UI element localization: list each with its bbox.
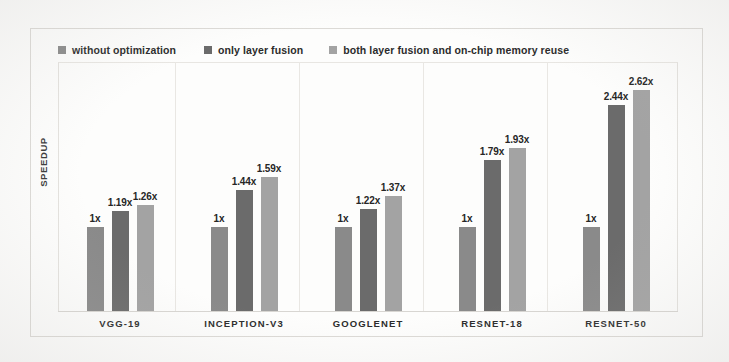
- chart-legend: without optimization only layer fusion b…: [58, 42, 569, 58]
- bar-group-bars: 1x1.44x1.59x: [182, 62, 306, 312]
- bar-value-label: 1x: [90, 213, 101, 224]
- bar-column[interactable]: 1.19x: [112, 62, 129, 312]
- bar-column[interactable]: 1.93x: [509, 62, 526, 312]
- x-axis-category-label: INCEPTION-V3: [182, 318, 306, 329]
- plot-area: 1x1.19x1.26x1x1.44x1.59x1x1.22x1.37x1x1.…: [58, 62, 678, 312]
- legend-item-only-layer-fusion: only layer fusion: [204, 44, 303, 56]
- bar-group: 1x2.44x2.62x: [554, 62, 678, 312]
- bar[interactable]: [261, 177, 278, 312]
- bar-group: 1x1.22x1.37x: [306, 62, 430, 312]
- bar[interactable]: [509, 148, 526, 312]
- bar[interactable]: [484, 160, 501, 312]
- bar-column[interactable]: 1.79x: [484, 62, 501, 312]
- bar-group-bars: 1x1.79x1.93x: [430, 62, 554, 312]
- bar-column[interactable]: 1x: [583, 62, 600, 312]
- bar-column[interactable]: 1.26x: [137, 62, 154, 312]
- bar[interactable]: [633, 90, 650, 312]
- x-axis-category-label: RESNET-18: [430, 318, 554, 329]
- bar[interactable]: [137, 205, 154, 312]
- bar-group: 1x1.44x1.59x: [182, 62, 306, 312]
- bar-value-label: 1x: [338, 213, 349, 224]
- bar-value-label: 1.44x: [232, 176, 257, 187]
- legend-label-series-1: without optimization: [72, 44, 176, 56]
- bar-group-bars: 1x2.44x2.62x: [554, 62, 678, 312]
- x-axis-category-label: VGG-19: [58, 318, 182, 329]
- bar-value-label: 1.59x: [257, 163, 282, 174]
- x-axis-category-label: RESNET-50: [554, 318, 678, 329]
- legend-item-both-fusion-and-memory-reuse: both layer fusion and on-chip memory reu…: [329, 44, 569, 56]
- bar-value-label: 1.26x: [133, 191, 158, 202]
- bar-column[interactable]: 1.59x: [261, 62, 278, 312]
- bar[interactable]: [236, 190, 253, 312]
- bar-column[interactable]: 1.37x: [385, 62, 402, 312]
- bar[interactable]: [335, 227, 352, 312]
- bar-column[interactable]: 2.44x: [608, 62, 625, 312]
- bar-value-label: 1x: [214, 213, 225, 224]
- bar[interactable]: [211, 227, 228, 312]
- bar-group: 1x1.79x1.93x: [430, 62, 554, 312]
- bar[interactable]: [87, 227, 104, 312]
- bar[interactable]: [112, 211, 129, 312]
- bar[interactable]: [360, 209, 377, 312]
- y-axis-title: SPEEDUP: [38, 122, 49, 202]
- bar-value-label: 1.79x: [480, 146, 505, 157]
- bar-column[interactable]: 1x: [335, 62, 352, 312]
- bar-value-label: 1.22x: [356, 195, 381, 206]
- bar-group-bars: 1x1.22x1.37x: [306, 62, 430, 312]
- bar-value-label: 1.19x: [108, 197, 133, 208]
- legend-swatch-icon-series-1: [58, 46, 66, 54]
- bar-group-bars: 1x1.19x1.26x: [58, 62, 182, 312]
- legend-swatch-icon-series-3: [329, 46, 337, 54]
- scanned-figure-canvas: without optimization only layer fusion b…: [0, 0, 729, 362]
- legend-label-series-3: both layer fusion and on-chip memory reu…: [343, 44, 569, 56]
- bar-column[interactable]: 1x: [459, 62, 476, 312]
- bar[interactable]: [583, 227, 600, 312]
- bar[interactable]: [459, 227, 476, 312]
- bar-value-label: 2.44x: [604, 91, 629, 102]
- bar-value-label: 1.37x: [381, 182, 406, 193]
- bar-value-label: 1.93x: [505, 134, 530, 145]
- legend-label-series-2: only layer fusion: [218, 44, 303, 56]
- legend-swatch-icon-series-2: [204, 46, 212, 54]
- bar[interactable]: [608, 105, 625, 312]
- bar-column[interactable]: 1x: [87, 62, 104, 312]
- bar-value-label: 1x: [462, 213, 473, 224]
- x-axis-baseline: [58, 311, 678, 312]
- bar-group: 1x1.19x1.26x: [58, 62, 182, 312]
- bar-value-label: 1x: [586, 213, 597, 224]
- bar-column[interactable]: 2.62x: [633, 62, 650, 312]
- bar-column[interactable]: 1.44x: [236, 62, 253, 312]
- x-axis-category-label: GOOGLENET: [306, 318, 430, 329]
- bar-value-label: 2.62x: [629, 76, 654, 87]
- bar-column[interactable]: 1x: [211, 62, 228, 312]
- legend-item-without-optimization: without optimization: [58, 44, 176, 56]
- bar[interactable]: [385, 196, 402, 312]
- bar-column[interactable]: 1.22x: [360, 62, 377, 312]
